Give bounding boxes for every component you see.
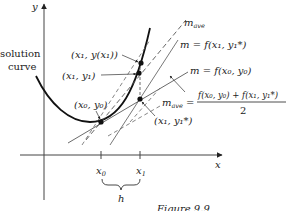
x-axis-label: x (215, 159, 221, 170)
label-x1-y1: (x₁, y₁) (62, 70, 96, 81)
y-axis-label: y (31, 1, 38, 12)
label-x0-y0: (x₀, y₀) (74, 99, 108, 110)
leader-x0-y0 (96, 111, 100, 119)
point-x0-y0 (98, 119, 103, 124)
label-m-f0: m = f(x₀, y₀) (190, 65, 251, 76)
point-x1-y1star (137, 96, 142, 101)
point-x1-y1 (136, 70, 141, 75)
h-label: h (118, 193, 124, 204)
euler-improved-diagram: y x x0 x1 h Figure 9.9 solution curve (x… (0, 0, 286, 211)
figure-caption: Figure 9.9 (156, 203, 210, 211)
curve-label-line1: solution (0, 48, 41, 59)
label-mave: mave (184, 17, 205, 30)
formula-lhs: mave = (162, 97, 194, 110)
label-x1-yx1: (x₁, y(x₁)) (71, 49, 118, 60)
leader-x1-y1star (142, 102, 155, 116)
tick-label-x1: x1 (136, 165, 146, 178)
slope-line-f1 (110, 40, 178, 145)
h-brace (102, 179, 140, 190)
point-x1-yx1 (138, 60, 143, 65)
curve-label-line2: curve (8, 61, 36, 72)
formula-denominator: 2 (240, 105, 246, 116)
label-m-f1: m = f(x₁, y₁*) (180, 39, 246, 50)
label-x1-y1star: (x₁, y₁*) (154, 115, 193, 126)
tick-label-x0: x0 (96, 165, 106, 178)
formula-numerator: f(x₀, y₀) + f(x₁, y₁*) (197, 90, 278, 100)
leader-x1-yx1 (122, 55, 138, 62)
leader-x1-y1 (101, 74, 136, 75)
